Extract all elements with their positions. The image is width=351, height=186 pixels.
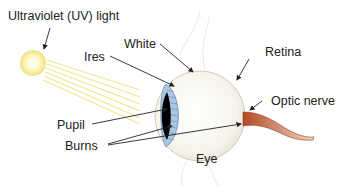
label-pupil: Pupil	[57, 119, 85, 132]
uv-rays	[43, 60, 140, 124]
diagram-graphic	[0, 0, 351, 186]
label-burns: Burns	[65, 140, 98, 153]
label-optic-nerve: Optic nerve	[271, 95, 335, 108]
label-uv-light: Ultraviolet (UV) light	[8, 10, 119, 23]
uv-eye-diagram: Ultraviolet (UV) light White Ires Retina…	[0, 0, 351, 186]
sun-icon	[20, 50, 46, 76]
optic-nerve	[243, 112, 314, 140]
label-retina: Retina	[265, 46, 301, 59]
label-ires: Ires	[84, 51, 105, 64]
label-eye: Eye	[196, 153, 218, 166]
label-white: White	[124, 38, 156, 51]
